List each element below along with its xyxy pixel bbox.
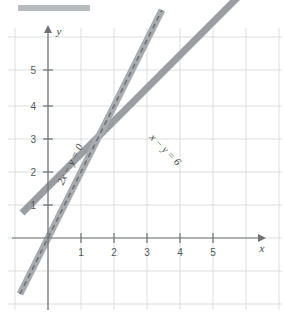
x-tick-label-1: 1 [78, 247, 84, 258]
coordinate-plane: 1 2 3 4 5 1 2 3 4 5 x y x − y = 6 2x − y… [0, 0, 284, 329]
x-tick-label-3: 3 [144, 247, 150, 258]
y-tick-label-5: 5 [30, 65, 36, 76]
graph-figure: 1 2 3 4 5 1 2 3 4 5 x y x − y = 6 2x − y… [0, 0, 284, 329]
axis-label-x: x [259, 242, 265, 254]
y-tick-label-4: 4 [30, 101, 36, 112]
y-tick-labels: 1 2 3 4 5 [30, 65, 36, 211]
graph-svg: 1 2 3 4 5 1 2 3 4 5 x y x − y = 6 2x − y… [0, 0, 284, 329]
x-tick-label-4: 4 [177, 247, 183, 258]
axis-y [44, 25, 52, 310]
equation-label-solid: x − y = 6 [147, 131, 184, 168]
y-tick-label-1: 1 [30, 200, 36, 211]
x-tick-label-5: 5 [210, 247, 216, 258]
series-line-dashed [20, 10, 162, 294]
axis-label-y: y [56, 25, 62, 37]
x-tick-labels: 1 2 3 4 5 [78, 247, 216, 258]
y-tick-label-2: 2 [30, 167, 36, 178]
y-tick-label-3: 3 [30, 134, 36, 145]
x-tick-label-2: 2 [111, 247, 117, 258]
